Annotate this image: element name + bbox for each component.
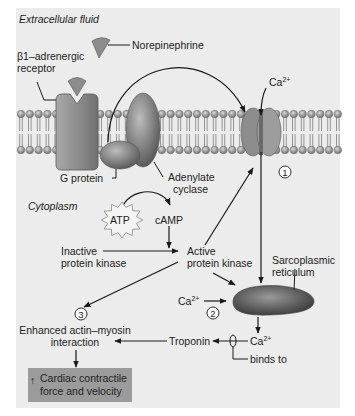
g-protein-label: G protein: [60, 172, 103, 184]
increase-arrow-icon: ↑: [30, 374, 35, 386]
receptor-label-line1: β1–adrenergic: [17, 50, 84, 62]
step-number: 3: [78, 309, 83, 320]
active-pk-label-line1: Active: [187, 245, 216, 257]
inactive-pk-label-line2: protein kinase: [61, 257, 127, 269]
sr-label-line2: reticulum: [272, 266, 315, 278]
inactive-pk-label-line1: Inactive: [61, 245, 97, 257]
result-label-line2: force and velocity: [40, 385, 122, 397]
step-1-marker: 1: [279, 166, 291, 178]
atp-label: ATP: [110, 214, 130, 226]
troponin-label: Troponin: [169, 335, 210, 347]
step-number: 2: [210, 308, 215, 319]
extracellular-fluid-label: Extracellular fluid: [19, 13, 100, 25]
diagram-canvas: 123Extracellular fluidNorepinephrineβ1–a…: [0, 0, 355, 416]
step-3-marker: 3: [75, 308, 87, 320]
step-2-marker: 2: [207, 307, 219, 319]
binds-to-label: binds to: [250, 353, 287, 365]
result-label-line1: Cardiac contractile: [40, 372, 127, 384]
actin-myosin-label-line2: interaction: [51, 336, 100, 348]
receptor-label-line2: receptor: [17, 62, 56, 74]
adenylate-cyclase-label-line1: Adenylate: [168, 171, 215, 183]
camp-label: cAMP: [155, 214, 183, 226]
step-number: 1: [282, 167, 287, 178]
adenylate-cyclase-label-line2: cyclase: [173, 183, 208, 195]
beta1-adrenergic-receptor: [56, 94, 98, 170]
active-pk-label-line2: protein kinase: [187, 257, 253, 269]
norepinephrine-label: Norepinephrine: [132, 39, 204, 51]
cytoplasm-label: Cytoplasm: [28, 200, 78, 212]
g-protein: [100, 141, 140, 169]
sr-label-line1: Sarcoplasmic: [272, 254, 335, 266]
calcium-channel: [241, 108, 281, 156]
actin-myosin-label-line1: Enhanced actin–myosin: [19, 324, 131, 336]
